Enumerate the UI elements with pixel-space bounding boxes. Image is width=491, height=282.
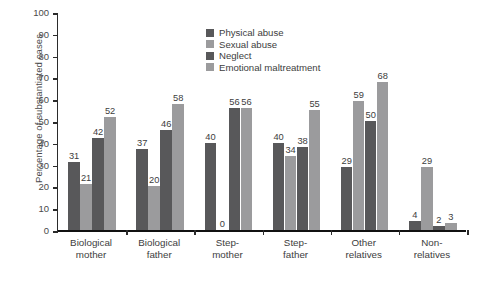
- bar-value-label: 56: [229, 97, 239, 107]
- category-label-line: Non-: [398, 237, 466, 249]
- bar-value-label: 0: [220, 219, 225, 229]
- x-axis-category-label: Biologicalmother: [57, 237, 125, 261]
- y-tick-label: 90: [22, 29, 49, 40]
- x-tick-mark: [399, 230, 401, 235]
- y-tick-label: 50: [22, 116, 49, 127]
- bar: 4: [409, 221, 421, 230]
- bar: 50: [365, 121, 377, 230]
- y-tick-label: 100: [22, 7, 49, 18]
- bar-value-label: 20: [149, 175, 159, 185]
- y-tick-mark: [53, 231, 58, 233]
- x-tick-mark: [331, 230, 333, 235]
- category-label-line: Biological: [57, 237, 125, 249]
- bar-value-label: 29: [342, 156, 352, 166]
- bar-value-label: 40: [273, 132, 283, 142]
- bar: 31: [68, 162, 80, 230]
- chart-legend: Physical abuseSexual abuseNeglectEmotion…: [206, 27, 320, 73]
- x-axis-category-label: Otherrelatives: [330, 237, 398, 261]
- y-tick-label: 70: [22, 72, 49, 83]
- bar-value-label: 3: [448, 212, 453, 222]
- bar-value-label: 42: [93, 127, 103, 137]
- bar: 29: [341, 167, 353, 230]
- bar-value-label: 56: [241, 97, 251, 107]
- legend-item: Physical abuse: [206, 27, 320, 39]
- category-label-line: Other: [330, 237, 398, 249]
- bar-value-label: 31: [69, 151, 79, 161]
- bar-group: 42923: [399, 14, 467, 230]
- y-tick-label: 60: [22, 94, 49, 105]
- legend-label: Neglect: [219, 50, 252, 61]
- category-label-line: relatives: [330, 249, 398, 261]
- bar: 56: [229, 108, 241, 230]
- bar-value-label: 40: [205, 132, 215, 142]
- bar: 42: [92, 138, 104, 230]
- y-tick-label: 10: [22, 203, 49, 214]
- legend-label: Physical abuse: [219, 27, 284, 38]
- x-axis-category-label: Step-father: [262, 237, 330, 261]
- bar: 52: [104, 117, 116, 230]
- bar: 2: [433, 226, 445, 230]
- bar-value-label: 59: [354, 90, 364, 100]
- bar-value-label: 29: [422, 156, 432, 166]
- bar-chart: Percentage of substantiated cases 100908…: [0, 0, 491, 282]
- x-tick-mark: [194, 230, 196, 235]
- y-tick-label: 80: [22, 51, 49, 62]
- bar: 34: [285, 156, 297, 230]
- bar-value-label: 38: [297, 136, 307, 146]
- category-label-line: mother: [57, 249, 125, 261]
- bar: 29: [421, 167, 433, 230]
- category-label-line: father: [262, 249, 330, 261]
- category-label-line: Step-: [262, 237, 330, 249]
- legend-item: Sexual abuse: [206, 39, 320, 51]
- bar: 38: [297, 147, 309, 230]
- legend-label: Sexual abuse: [219, 39, 277, 50]
- y-tick-label: 20: [22, 181, 49, 192]
- bar: 40: [273, 143, 285, 230]
- bar: 3: [445, 223, 457, 230]
- bar: 56: [241, 108, 253, 230]
- bar-value-label: 4: [412, 210, 417, 220]
- legend-label: Emotional maltreatment: [219, 62, 320, 73]
- bar: 58: [172, 104, 184, 230]
- category-label-line: relatives: [398, 249, 466, 261]
- bar-value-label: 46: [161, 119, 171, 129]
- legend-swatch-icon: [206, 29, 214, 37]
- legend-swatch-icon: [206, 63, 214, 71]
- bar-value-label: 55: [309, 99, 319, 109]
- bar-value-label: 2: [436, 215, 441, 225]
- bar: 68: [377, 82, 389, 230]
- y-tick-label: 40: [22, 138, 49, 149]
- x-axis-category-label: Step-mother: [193, 237, 261, 261]
- y-tick-label: 0: [22, 225, 49, 236]
- bar-value-label: 58: [173, 93, 183, 103]
- bar-value-label: 21: [81, 173, 91, 183]
- y-tick-label: 30: [22, 160, 49, 171]
- x-tick-mark: [263, 230, 265, 235]
- bar: 40: [205, 143, 217, 230]
- bar-value-label: 68: [378, 71, 388, 81]
- legend-swatch-icon: [206, 40, 214, 48]
- category-label-line: mother: [193, 249, 261, 261]
- bar: 59: [353, 101, 365, 230]
- bar-group: 29595068: [331, 14, 399, 230]
- bar: 55: [309, 110, 321, 230]
- bar-value-label: 52: [105, 106, 115, 116]
- bar: 20: [148, 186, 160, 230]
- bar: 46: [160, 130, 172, 230]
- bar-value-label: 37: [137, 138, 147, 148]
- legend-item: Neglect: [206, 50, 320, 62]
- category-label-line: father: [125, 249, 193, 261]
- x-axis-category-label: Non-relatives: [398, 237, 466, 261]
- legend-swatch-icon: [206, 52, 214, 60]
- bar-group: 37204658: [126, 14, 194, 230]
- category-label-line: Step-: [193, 237, 261, 249]
- legend-item: Emotional maltreatment: [206, 62, 320, 74]
- category-label-line: Biological: [125, 237, 193, 249]
- x-tick-mark: [467, 230, 469, 235]
- bar-value-label: 34: [285, 145, 295, 155]
- bar: 21: [80, 184, 92, 230]
- x-tick-mark: [126, 230, 128, 235]
- bar-value-label: 50: [366, 110, 376, 120]
- x-axis-category-label: Biologicalfather: [125, 237, 193, 261]
- bar: 37: [136, 149, 148, 230]
